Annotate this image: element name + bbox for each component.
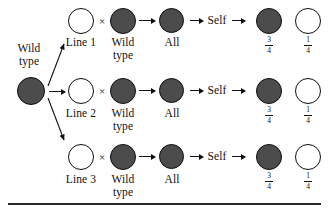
row2-f2-wildtype-circle [256,78,282,104]
row1-f2-wildtype-circle [256,8,282,34]
row2-f2-mutant-denominator: 4 [297,117,319,126]
row2-self-label: Self [204,84,230,97]
row3-arrow-to-self [190,156,203,157]
row2-arrow-to-self [190,90,203,91]
figure-bottom-rule [8,203,321,205]
row3-cross-operator: × [99,152,105,163]
row3-f2-mutant-denominator: 4 [297,183,319,192]
row3-partner-label-line1: Wild [100,173,146,186]
row3-f2-mutant-circle [295,144,321,170]
row2-cross-operator: × [99,86,105,97]
row3-arrow-to-f1 [139,156,155,157]
row3-f2-wildtype-denominator: 4 [258,183,280,192]
row3-f2-mutant-numerator: 1 [297,172,319,181]
row3-mutant-label: Line 3 [58,173,104,186]
row2-f2-wildtype-numerator: 3 [258,106,280,115]
row1-f2-mutant-fraction: 1 4 [297,36,319,55]
cross-diagram-figure: Wild type Line 1 × Wild type All Self 3 … [0,0,329,210]
row3-f2-mutant-fraction: 1 4 [297,172,319,191]
row2-f2-wildtype-denominator: 4 [258,117,280,126]
row1-f2-wildtype-numerator: 3 [258,36,280,45]
row1-f1-circle [159,8,184,33]
row1-mutant-circle [68,8,94,34]
row2-partner-circle [110,78,136,104]
row1-cross-operator: × [99,16,105,27]
row1-arrow-to-f1 [139,20,155,21]
row1-mutant-label: Line 1 [58,36,104,49]
row2-partner-label-line2: type [100,120,146,133]
row1-f2-wildtype-denominator: 4 [258,47,280,56]
row1-f2-mutant-numerator: 1 [297,36,319,45]
row2-arrow-to-f1 [139,90,155,91]
row1-partner-circle [110,8,136,34]
row2-mutant-label: Line 2 [58,107,104,120]
row3-mutant-circle [68,144,94,170]
row2-f1-circle [159,78,184,103]
row3-partner-circle [110,144,136,170]
row1-self-label: Self [204,14,230,27]
row1-partner-label-line2: type [100,49,146,62]
row2-f1-label: All [152,107,192,120]
row1-partner-label-line1: Wild [100,36,146,49]
row3-partner-label-line2: type [100,186,146,199]
branch-arrow-line2 [49,91,65,92]
row1-f2-mutant-circle [295,8,321,34]
row3-f2-wildtype-fraction: 3 4 [258,172,280,191]
row3-f2-wildtype-circle [256,144,282,170]
row2-f2-mutant-numerator: 1 [297,106,319,115]
row2-arrow-from-self [232,90,245,91]
row2-f2-mutant-circle [295,78,321,104]
source-label-line1: Wild [4,42,54,55]
source-label-line2: type [4,55,54,68]
row1-arrow-to-self [190,20,203,21]
row1-f1-label: All [152,36,192,49]
row3-arrow-from-self [232,156,245,157]
row1-arrow-from-self [232,20,245,21]
row2-f2-mutant-fraction: 1 4 [297,106,319,125]
row2-mutant-circle [68,78,94,104]
source-circle-wild-type [17,77,45,105]
row3-f2-wildtype-numerator: 3 [258,172,280,181]
row1-f2-wildtype-fraction: 3 4 [258,36,280,55]
row2-partner-label-line1: Wild [100,107,146,120]
row2-f2-wildtype-fraction: 3 4 [258,106,280,125]
row3-f1-label: All [152,173,192,186]
row3-self-label: Self [204,150,230,163]
row1-f2-mutant-denominator: 4 [297,47,319,56]
row3-f1-circle [159,144,184,169]
